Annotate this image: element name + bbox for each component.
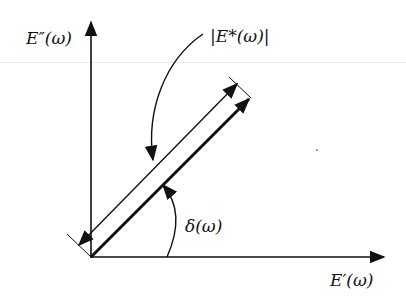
complex-modulus-vector	[91, 99, 249, 257]
diagram-canvas: E″(ω) |E*(ω)| δ(ω) E′(ω)	[0, 0, 406, 302]
y-axis-label: E″(ω)	[26, 30, 72, 47]
magnitude-pointer	[152, 34, 203, 160]
x-axis-label: E′(ω)	[330, 272, 373, 289]
phase-angle-label: δ(ω)	[185, 218, 222, 235]
phase-angle-arc	[163, 185, 176, 257]
magnitude-dimension-arrow	[67, 77, 251, 257]
magnitude-label: |E*(ω)|	[210, 28, 270, 45]
